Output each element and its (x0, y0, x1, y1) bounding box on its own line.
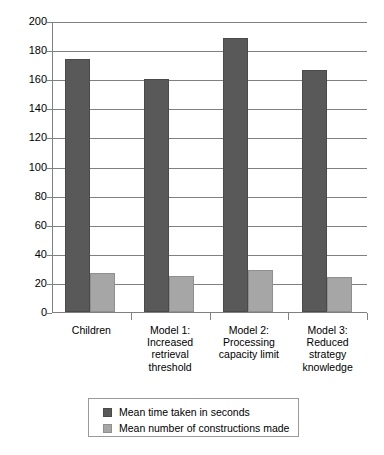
legend-swatch-icon (103, 408, 112, 417)
bar-mean-constructions (327, 277, 352, 312)
y-axis-tick-label: 100 (7, 162, 47, 173)
x-axis-category-label-line: Children (52, 324, 131, 336)
bar-mean-constructions (169, 276, 194, 312)
bar-mean-time (144, 79, 169, 312)
y-axis-tick-label: 0 (7, 307, 47, 318)
x-axis-category-label: Model 3:Reducedstrategyknowledge (288, 324, 367, 373)
y-axis-tick-label: 40 (7, 249, 47, 260)
y-axis-tick-label: 200 (7, 16, 47, 27)
x-axis-tick-mark (288, 313, 289, 320)
x-axis-category-label-line: knowledge (288, 361, 367, 373)
legend-swatch-icon (103, 424, 112, 433)
y-axis-tick-label: 180 (7, 45, 47, 56)
bar-mean-time (302, 70, 327, 312)
x-axis-category-label-line: Model 2: (210, 324, 289, 336)
x-axis-category-label-line: Increased (131, 336, 210, 348)
x-axis-category-label-line: strategy (288, 348, 367, 360)
y-axis-tick-label: 20 (7, 278, 47, 289)
legend-item-label: Mean number of constructions made (119, 423, 289, 434)
y-axis-tick-label: 120 (7, 132, 47, 143)
bar-mean-time (65, 59, 90, 312)
y-axis-tick-label: 160 (7, 74, 47, 85)
y-axis-tick-label: 140 (7, 103, 47, 114)
bar-mean-constructions (248, 270, 273, 312)
x-axis-category-label-line: threshold (131, 361, 210, 373)
gridline (53, 51, 367, 52)
x-axis-category-label-line: capacity limit (210, 348, 289, 360)
y-axis-tick-label: 60 (7, 220, 47, 231)
y-axis-tick-label: 80 (7, 191, 47, 202)
gridline (53, 22, 367, 23)
x-axis-tick-mark (131, 313, 132, 320)
plot-area (52, 22, 367, 313)
bar-mean-time (223, 38, 248, 312)
x-axis-category-label-line: Model 3: (288, 324, 367, 336)
x-axis-category-label-line: Processing (210, 336, 289, 348)
legend-item[interactable]: Mean number of constructions made (103, 421, 298, 435)
legend-item[interactable]: Mean time taken in seconds (103, 405, 298, 419)
x-axis-category-label: Model 2:Processingcapacity limit (210, 324, 289, 361)
chart-legend: Mean time taken in secondsMean number of… (88, 398, 299, 437)
bar-mean-constructions (90, 273, 115, 312)
legend-item-label: Mean time taken in seconds (119, 407, 250, 418)
x-axis-category-label-line: Reduced (288, 336, 367, 348)
x-axis-tick-mark (367, 313, 368, 320)
bar-chart: 020406080100120140160180200 ChildrenMode… (0, 0, 384, 455)
x-axis-category-label: Children (52, 324, 131, 336)
x-axis-category-label-line: Model 1: (131, 324, 210, 336)
x-axis-tick-mark (210, 313, 211, 320)
x-axis-category-label: Model 1:Increasedretrievalthreshold (131, 324, 210, 373)
y-axis-tick-mark (47, 313, 52, 314)
x-axis-category-label-line: retrieval (131, 348, 210, 360)
